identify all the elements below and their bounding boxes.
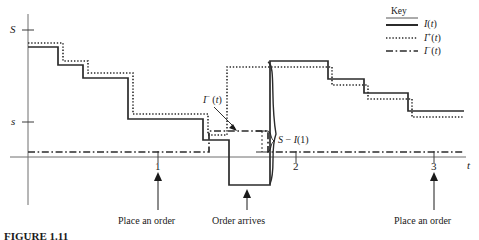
event-place-an-order-2-label: Place an order bbox=[394, 216, 451, 226]
series-i-plus-curve bbox=[28, 43, 464, 135]
figure-container: S s t 1 2 3 I− (t) S − I(1) Key I(t) I+(… bbox=[0, 0, 479, 240]
y-axis-label-s: s bbox=[11, 116, 15, 127]
legend-label-inventory-level: I(t) bbox=[424, 19, 437, 29]
inventory-plot-svg bbox=[0, 0, 479, 240]
event-order-arrives-label: Order arrives bbox=[212, 216, 265, 226]
i-minus-callout-arrow-line bbox=[214, 107, 235, 128]
i-minus-callout-arrowhead bbox=[229, 124, 237, 131]
arrow-place-an-order-2-head bbox=[430, 172, 438, 181]
x-axis-label-t: t bbox=[467, 160, 470, 171]
y-axis-label-S: S bbox=[10, 24, 16, 35]
event-place-an-order-1-label: Place an order bbox=[118, 216, 175, 226]
i-minus-callout-label: I− (t) bbox=[203, 94, 222, 105]
arrow-place-an-order-1-head bbox=[154, 172, 162, 181]
legend-label-inventory-position-minus: I−(t) bbox=[424, 45, 441, 56]
arrow-order-arrives-head bbox=[243, 189, 251, 198]
legend-label-inventory-position-plus: I+(t) bbox=[424, 32, 441, 43]
x-tick-label-3: 3 bbox=[431, 161, 437, 172]
s-minus-i1-label: S − I(1) bbox=[278, 135, 309, 145]
x-tick-label-2: 2 bbox=[293, 161, 299, 172]
x-tick-label-1: 1 bbox=[155, 161, 161, 172]
series-i-minus-curve bbox=[28, 131, 464, 152]
figure-caption: FIGURE 1.11 bbox=[4, 231, 68, 240]
legend-title: Key bbox=[391, 7, 407, 17]
